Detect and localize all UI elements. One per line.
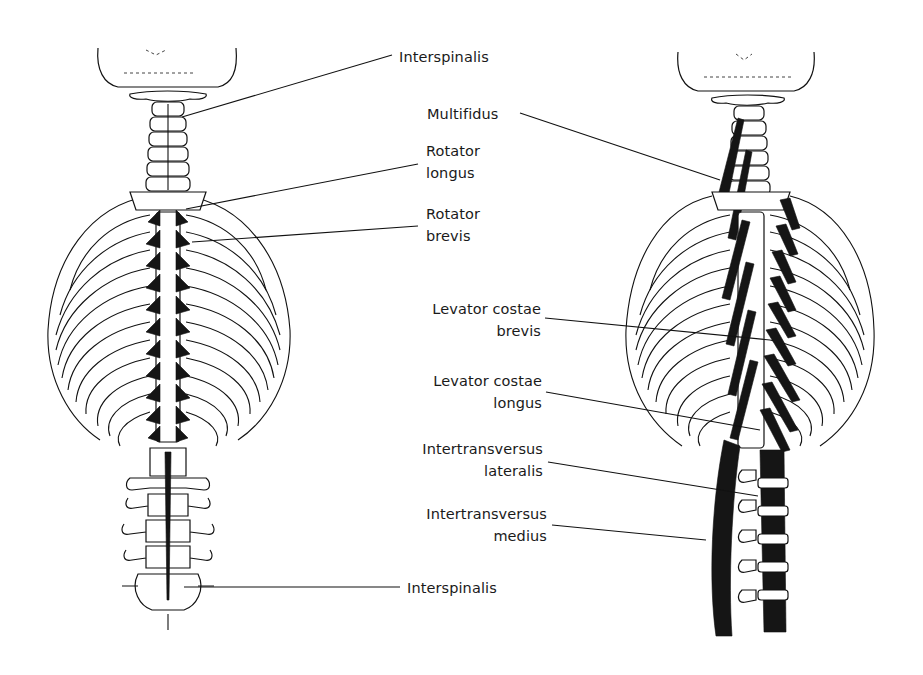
label-rotator-brevis: Rotator brevis (426, 203, 480, 247)
leader-levator-costae-longus (546, 392, 760, 430)
lumbar-right (712, 440, 788, 636)
leader-rotator-longus (186, 164, 418, 209)
intertransversus-muscle (712, 440, 740, 636)
levator-costae-muscles (760, 198, 800, 452)
anatomy-figure: Interspinalis Rotator longus Rotator bre… (0, 0, 923, 675)
label-rotator-longus: Rotator longus (426, 140, 480, 184)
leader-rotator-brevis (192, 226, 418, 242)
left-spine-panel (48, 48, 418, 630)
label-levator-costae-longus: Levator costae longus (412, 370, 542, 414)
label-intertransversus-lateralis: Intertransversus lateralis (395, 438, 543, 482)
leader-intertransversus-medius (552, 525, 706, 540)
skull-icon (678, 52, 815, 91)
lumbar-vertebrae-left (122, 448, 214, 630)
label-levator-costae-brevis: Levator costae brevis (411, 298, 541, 342)
label-intertransversus-medius: Intertransversus medius (399, 503, 547, 547)
label-interspinalis-bottom: Interspinalis (407, 577, 497, 599)
skull-icon (98, 48, 237, 87)
thoracic-vertebrae-left (130, 192, 206, 442)
label-interspinalis-top: Interspinalis (399, 46, 489, 68)
label-multifidus: Multifidus (427, 103, 499, 125)
right-spine-panel (520, 52, 874, 636)
cervical-vertebrae (146, 102, 190, 191)
leader-multifidus (520, 113, 720, 180)
